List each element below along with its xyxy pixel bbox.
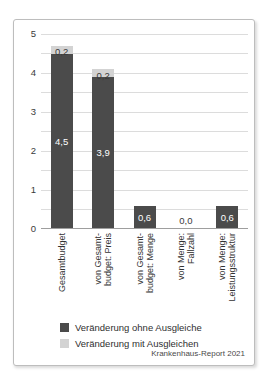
bar-value-label: 0,6 (212, 212, 242, 223)
bar-value-label: 4,5 (47, 136, 77, 147)
bar-value-label: 3,9 (88, 147, 118, 158)
bar-value-label: 0,2 (47, 46, 77, 57)
plot-area: 4,50,23,90,20,60,00,6 (41, 34, 248, 229)
bar-value-label: 0,0 (171, 215, 201, 226)
legend-swatch-light (60, 339, 69, 348)
x-axis-category-label: von Gesamt- budget: Menge (135, 233, 155, 318)
y-axis-tick-label: 4 (20, 67, 36, 78)
x-axis-category-label: Gesamtbudget (57, 233, 67, 318)
x-axis-line (41, 228, 248, 229)
legend: Veränderung ohne Ausgleiche Veränderung … (60, 319, 202, 351)
x-axis-category-label: von Gesamt- budget: Preis (93, 233, 113, 318)
legend-label: Veränderung ohne Ausgleiche (75, 322, 202, 333)
x-axis-category-label: von Menge: Leistungsstruktur (217, 233, 237, 318)
y-axis-tick-label: 3 (20, 106, 36, 117)
y-axis-tick-label: 0 (20, 223, 36, 234)
legend-item-ohne-ausgleiche: Veränderung ohne Ausgleiche (60, 319, 202, 335)
legend-swatch-dark (60, 323, 69, 332)
chart-card: 4,50,23,90,20,60,00,6 Veränderung ohne A… (13, 19, 255, 366)
bar-value-label: 0,6 (130, 212, 160, 223)
y-axis-tick-label: 5 (20, 28, 36, 39)
gridline (41, 34, 248, 35)
y-axis-tick-label: 1 (20, 184, 36, 195)
source-caption: Krankenhaus-Report 2021 (151, 349, 245, 358)
y-axis-tick-label: 2 (20, 145, 36, 156)
legend-label: Veränderung mit Ausgleichen (75, 338, 199, 349)
bar-value-label: 0,2 (88, 70, 118, 81)
x-axis-category-label: von Menge: Fallzahl (176, 233, 196, 318)
